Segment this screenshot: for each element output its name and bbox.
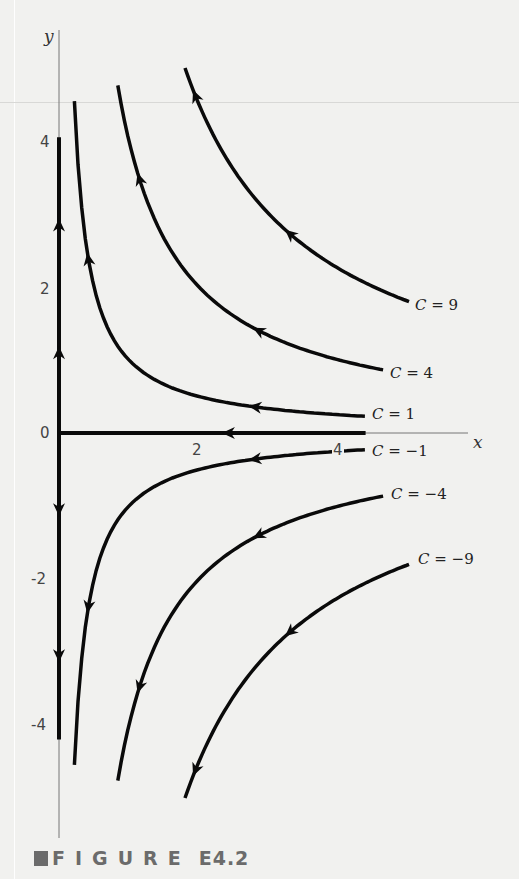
caption-number: E4.2 [199,847,250,869]
curve-label-c9: C = 9 [415,298,458,313]
curve-label-c1: C = 1 [372,407,415,422]
phase-portrait-plot [0,0,519,879]
square-bullet-icon [34,851,48,866]
y-tick-0: 0 [40,426,50,441]
x-tick-2: 2 [192,443,202,458]
x-axis-label: x [473,434,483,451]
curve-label-c4: C = 4 [390,366,433,381]
y-axis-label: y [44,28,54,45]
figure-caption: FIGUREE4.2 [34,847,249,869]
curve-label-cneg9: C = −9 [418,552,474,567]
hyperbola-curve [185,68,409,302]
hyperbola-curve [185,564,409,798]
hyperbola-curve [118,85,383,370]
curve-group [59,68,409,798]
y-tick-2: 2 [40,282,50,297]
curve-label-cneg4: C = −4 [391,487,447,502]
y-tick-neg4: -4 [31,718,46,733]
y-tick-4: 4 [40,135,50,150]
curve-label-cneg1: C = −1 [372,444,428,459]
caption-word: FIGURE [52,847,191,869]
y-tick-neg2: -2 [31,572,46,587]
x-tick-4: 4 [332,443,344,458]
hyperbola-curve [118,496,383,780]
